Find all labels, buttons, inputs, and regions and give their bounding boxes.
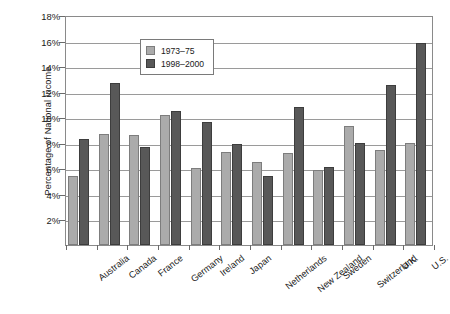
y-tick-label: 4% bbox=[14, 189, 60, 200]
legend-item: 1998–2000 bbox=[146, 57, 204, 70]
legend-swatch-icon bbox=[146, 59, 155, 68]
y-tick-mark bbox=[59, 144, 65, 145]
plot-area: 1973–75 1998–2000 bbox=[65, 16, 433, 246]
x-tick-mark bbox=[281, 245, 282, 250]
bar bbox=[344, 126, 354, 245]
y-tick-label: 2% bbox=[14, 215, 60, 226]
bar bbox=[99, 134, 109, 245]
x-tick-mark bbox=[189, 245, 190, 250]
bar-group bbox=[250, 17, 281, 245]
y-tick-mark bbox=[59, 42, 65, 43]
x-tick-mark bbox=[219, 245, 220, 250]
bar bbox=[324, 167, 334, 245]
x-tick-mark bbox=[97, 245, 98, 250]
bar bbox=[202, 122, 212, 245]
y-tick-label: 16% bbox=[14, 36, 60, 47]
legend-item: 1973–75 bbox=[146, 44, 204, 57]
bar-group bbox=[281, 17, 312, 245]
y-tick-label: 14% bbox=[14, 62, 60, 73]
bar bbox=[171, 111, 181, 245]
bar bbox=[129, 135, 139, 245]
bar-group bbox=[97, 17, 128, 245]
bar-group bbox=[342, 17, 373, 245]
bar bbox=[252, 162, 262, 245]
bar bbox=[416, 43, 426, 245]
y-tick-mark bbox=[59, 118, 65, 119]
x-tick-mark bbox=[311, 245, 312, 250]
x-tick-mark bbox=[158, 245, 159, 250]
bar bbox=[263, 176, 273, 245]
bar bbox=[294, 107, 304, 245]
y-tick-mark bbox=[59, 67, 65, 68]
bar bbox=[79, 139, 89, 245]
y-tick-mark bbox=[59, 220, 65, 221]
x-tick-mark bbox=[250, 245, 251, 250]
x-tick-mark bbox=[434, 245, 435, 250]
bar bbox=[140, 147, 150, 245]
legend-swatch-icon bbox=[146, 46, 155, 55]
bar bbox=[313, 170, 323, 245]
x-tick-mark bbox=[373, 245, 374, 250]
x-tick-mark bbox=[403, 245, 404, 250]
y-tick-label: 18% bbox=[14, 11, 60, 22]
bar bbox=[405, 143, 415, 245]
y-tick-mark bbox=[59, 195, 65, 196]
bar bbox=[221, 152, 231, 245]
bar bbox=[232, 144, 242, 245]
legend-label: 1998–2000 bbox=[161, 59, 204, 69]
x-category-label: France bbox=[156, 253, 185, 278]
bar-chart: Percentage of National Income 1973–75 19… bbox=[0, 0, 450, 314]
x-category-label: Australia bbox=[96, 253, 130, 283]
bar-group bbox=[219, 17, 250, 245]
bar bbox=[160, 115, 170, 245]
y-tick-mark bbox=[59, 93, 65, 94]
x-tick-mark bbox=[342, 245, 343, 250]
bar bbox=[386, 85, 396, 245]
y-tick-mark bbox=[59, 16, 65, 17]
y-tick-mark bbox=[59, 169, 65, 170]
bar-group bbox=[311, 17, 342, 245]
x-tick-mark bbox=[66, 245, 67, 250]
x-category-label: Japan bbox=[248, 253, 274, 276]
bar-group bbox=[403, 17, 434, 245]
bar bbox=[191, 168, 201, 245]
legend: 1973–75 1998–2000 bbox=[140, 39, 214, 75]
x-tick-mark bbox=[127, 245, 128, 250]
bar bbox=[283, 153, 293, 245]
bar bbox=[355, 143, 365, 245]
x-category-label: Canada bbox=[126, 253, 158, 281]
bar-group bbox=[66, 17, 97, 245]
bar bbox=[375, 150, 385, 245]
y-tick-label: 12% bbox=[14, 87, 60, 98]
y-tick-label: 8% bbox=[14, 138, 60, 149]
legend-label: 1973–75 bbox=[161, 46, 194, 56]
bar bbox=[68, 176, 78, 245]
bar-group bbox=[373, 17, 404, 245]
y-tick-label: 10% bbox=[14, 113, 60, 124]
x-category-label: U.S. bbox=[430, 253, 450, 272]
bar bbox=[110, 83, 120, 245]
y-tick-label: 6% bbox=[14, 164, 60, 175]
